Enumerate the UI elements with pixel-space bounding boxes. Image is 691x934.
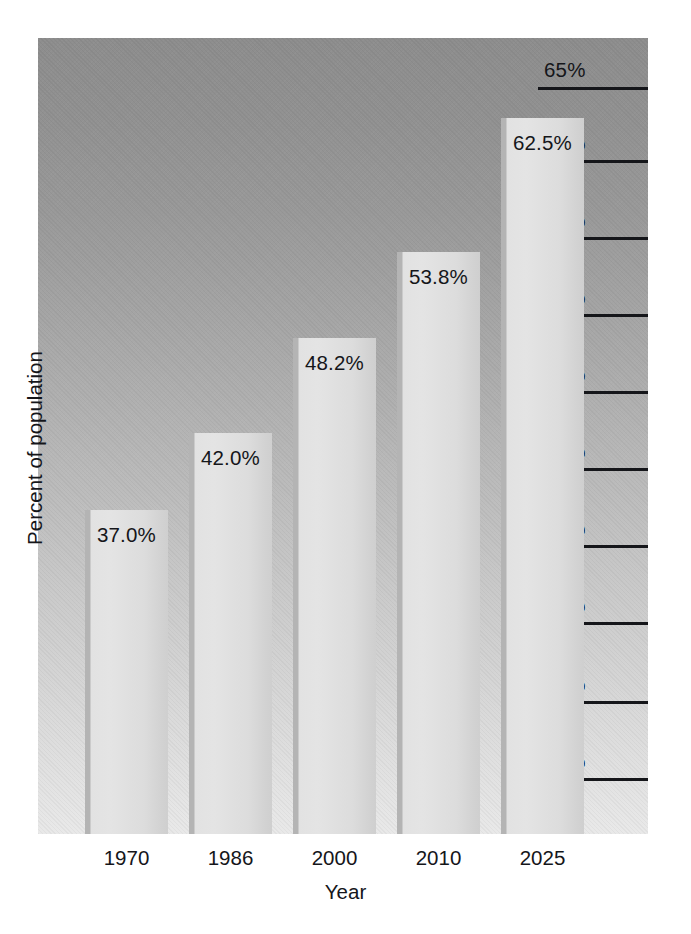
x-axis-label-2010: 2010	[397, 846, 480, 870]
bar-value-label: 62.5%	[501, 131, 584, 155]
y-axis-tick-label: 65%	[544, 58, 586, 82]
bar-value-label: 48.2%	[293, 351, 376, 375]
plot-area: 65% 60% 55% 50% 45% 40% 35% 30%	[38, 38, 648, 834]
x-axis-label-1970: 1970	[85, 846, 168, 870]
x-axis-label-2025: 2025	[501, 846, 584, 870]
x-axis-label-2000: 2000	[293, 846, 376, 870]
bar-value-label: 42.0%	[189, 446, 272, 470]
bar-value-label: 53.8%	[397, 265, 480, 289]
y-axis-title: Percent of population	[23, 218, 47, 678]
bar-chart-figure: 65% 60% 55% 50% 45% 40% 35% 30%	[0, 0, 691, 934]
bar-2000[interactable]: 48.2%	[293, 338, 376, 834]
x-axis-label-1986: 1986	[189, 846, 272, 870]
y-axis-tick-rule	[538, 87, 648, 90]
bar-1986[interactable]: 42.0%	[189, 433, 272, 834]
bar-1970[interactable]: 37.0%	[85, 510, 168, 834]
bar-value-label: 37.0%	[85, 523, 168, 547]
bar-2010[interactable]: 53.8%	[397, 252, 480, 834]
x-axis-title: Year	[0, 880, 691, 904]
bar-2025[interactable]: 62.5%	[501, 118, 584, 834]
